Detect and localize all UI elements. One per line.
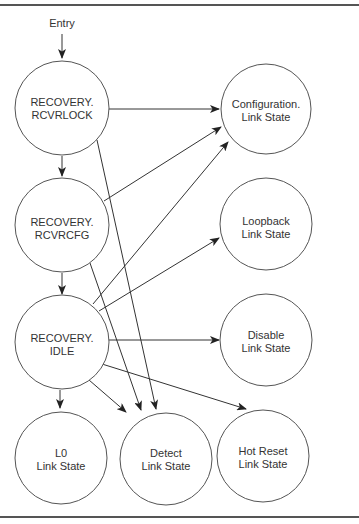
node-configuration: Configuration. Link State (221, 64, 311, 154)
node-detect: Detect Link State (120, 413, 212, 505)
edge-idle-to-hot-reset (102, 364, 246, 409)
node-rcvrlock-line2: RCVRLOCK (31, 109, 93, 121)
node-hot-reset: Hot Reset Link State (217, 410, 309, 502)
node-l0-line1: L0 (55, 447, 67, 459)
node-disable: Disable Link State (220, 294, 312, 386)
node-rcvrcfg-line2: RCVRCFG (35, 229, 89, 241)
node-rcvrlock-line1: RECOVERY. (30, 96, 93, 108)
node-rcvrcfg-line1: RECOVERY. (30, 216, 93, 228)
node-disable-line1: Disable (248, 329, 285, 341)
edge-rcvrcfg-to-configuration (104, 127, 221, 201)
node-hot-reset-line1: Hot Reset (239, 445, 288, 457)
node-loopback-line1: Loopback (242, 215, 290, 227)
entry-label: Entry (49, 17, 75, 29)
node-configuration-line2: Link State (242, 111, 291, 123)
node-rcvrlock: RECOVERY. RCVRLOCK (15, 61, 109, 155)
node-idle: RECOVERY. IDLE (15, 295, 109, 389)
node-loopback: Loopback Link State (220, 178, 312, 270)
node-idle-line1: RECOVERY. (30, 332, 93, 344)
node-detect-line1: Detect (150, 447, 182, 459)
node-l0: L0 Link State (15, 412, 107, 504)
node-detect-line2: Link State (142, 460, 191, 472)
edge-idle-to-detect (89, 380, 126, 412)
edge-idle-to-configuration (93, 142, 228, 304)
node-loopback-line2: Link State (242, 228, 291, 240)
node-l0-line2: Link State (37, 460, 86, 472)
node-idle-line2: IDLE (50, 345, 74, 357)
node-rcvrcfg: RECOVERY. RCVRCFG (15, 178, 109, 272)
node-hot-reset-line2: Link State (239, 458, 288, 470)
recovery-state-diagram: Entry RECOVERY. RCVRLOCK RECOVERY. RCVRC… (0, 0, 359, 524)
node-configuration-line1: Configuration. (232, 98, 301, 110)
node-disable-line2: Link State (242, 342, 291, 354)
